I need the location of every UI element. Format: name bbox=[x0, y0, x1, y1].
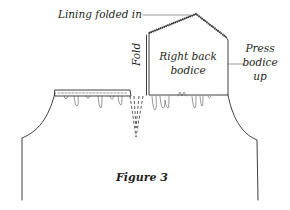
right-armhole-side-seam bbox=[228, 95, 258, 200]
lining-folded-in-label: Lining folded in bbox=[57, 8, 142, 20]
press-label-line3: up bbox=[253, 70, 267, 82]
fold-label: Fold bbox=[130, 43, 142, 67]
figure-caption: Figure 3 bbox=[115, 171, 168, 184]
sewing-diagram: Lining folded in Fold Right back bodice … bbox=[0, 0, 290, 210]
left-armhole-side-seam bbox=[22, 93, 55, 200]
dart-lines bbox=[130, 96, 143, 137]
left-seam-hand-stitches bbox=[64, 96, 122, 108]
press-label-line1: Press bbox=[244, 42, 275, 54]
bodice-neckline bbox=[149, 14, 226, 37]
press-label-line2: bodice bbox=[242, 56, 277, 68]
bodice-label-line1: Right back bbox=[158, 50, 217, 62]
bodice-label-line2: bodice bbox=[170, 64, 205, 76]
